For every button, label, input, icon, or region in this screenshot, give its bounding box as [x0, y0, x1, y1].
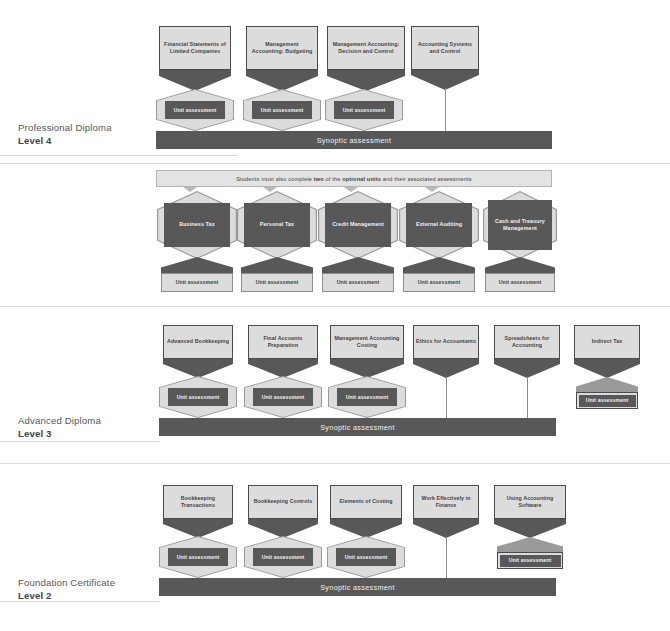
unit-box-elements-of-costing[interactable]: Elements of Costing: [330, 485, 402, 519]
unit-assessment-label-box: Unit assessment: [337, 388, 397, 406]
connector-line: [445, 88, 446, 132]
synoptic-assessment-bar-level-2[interactable]: Synoptic assessment: [159, 578, 556, 596]
unit-assessment-hexagon-financial-statements[interactable]: Unit assessment: [156, 89, 234, 131]
unit-box-advanced-bookkeeping[interactable]: Advanced Bookkeeping: [163, 325, 233, 359]
arrow-down-icon: [494, 519, 566, 538]
optional-unit-title-box: Cash and Treasury Management: [488, 200, 552, 250]
unit-box-using-accounting-software[interactable]: Using Accounting Software: [494, 485, 566, 519]
unit-title: Indirect Tax: [590, 338, 625, 345]
unit-box-management-accounting-decision-control[interactable]: Management Accounting: Decision and Cont…: [327, 26, 405, 70]
unit-box-accounting-systems-and-control[interactable]: Accounting Systems and Control: [411, 26, 479, 70]
section-divider: [0, 163, 670, 164]
optional-unit-hexagon-personal-tax[interactable]: Personal Tax: [237, 191, 317, 259]
arrow-up-icon: [576, 377, 638, 393]
optional-unit-title: Cash and Treasury Management: [488, 218, 552, 232]
arrow-up-icon: [161, 257, 233, 274]
unit-title: Elements of Costing: [337, 498, 394, 505]
unit-assessment-box-indirect-tax[interactable]: Unit assessment: [576, 392, 638, 409]
unit-assessment-hexagon-final-accounts[interactable]: Unit assessment: [244, 376, 322, 418]
unit-assessment-label: Unit assessment: [174, 107, 217, 114]
unit-title: Spreadsheets for Accounting: [495, 335, 559, 349]
synoptic-assessment-bar-level-4[interactable]: Synoptic assessment: [156, 131, 552, 149]
banner-prefix: Students must also complete: [236, 176, 314, 182]
unit-assessment-hexagon-bookkeeping-transactions[interactable]: Unit assessment: [159, 536, 237, 578]
level-number: Level 4: [18, 135, 112, 148]
unit-assessment-box-personal-tax[interactable]: Unit assessment: [241, 273, 313, 292]
arrow-down-icon: [327, 70, 405, 91]
level-label-professional-diploma: Professional Diploma Level 4: [18, 122, 112, 147]
unit-title: Management Accounting: Decision and Cont…: [328, 41, 404, 55]
optional-unit-hexagon-credit-management[interactable]: Credit Management: [318, 191, 398, 259]
banner-mid: of the: [324, 176, 342, 182]
banner-bold-two: two: [314, 176, 324, 182]
unit-title: Bookkeeping Controls: [252, 498, 315, 505]
unit-assessment-label: Unit assessment: [177, 554, 220, 561]
unit-box-work-effectively-in-finance[interactable]: Work Effectively in Finance: [413, 485, 479, 519]
unit-title: Using Accounting Software: [495, 495, 565, 509]
optional-unit-title-box: Business Tax: [164, 203, 230, 247]
unit-box-management-accounting-costing[interactable]: Management Accounting Costing: [330, 325, 404, 359]
unit-assessment-hexagon-budgeting[interactable]: Unit assessment: [243, 89, 321, 131]
unit-assessment-hexagon-elements-of-costing[interactable]: Unit assessment: [327, 536, 405, 578]
synoptic-assessment-bar-level-3[interactable]: Synoptic assessment: [159, 418, 556, 436]
unit-assessment-label: Unit assessment: [337, 279, 380, 286]
connector-line: [446, 537, 447, 579]
optional-unit-title: External Auditing: [416, 221, 462, 228]
unit-title: Management Accounting Costing: [331, 335, 403, 349]
synoptic-assessment-label: Synoptic assessment: [320, 423, 395, 432]
unit-assessment-box-external-auditing[interactable]: Unit assessment: [403, 273, 475, 292]
optional-unit-hexagon-external-auditing[interactable]: External Auditing: [399, 191, 479, 259]
unit-assessment-label: Unit assessment: [343, 107, 386, 114]
unit-box-final-accounts-preparation[interactable]: Final Accounts Preparation: [248, 325, 318, 359]
unit-box-spreadsheets-for-accounting[interactable]: Spreadsheets for Accounting: [494, 325, 560, 359]
optional-unit-title: Personal Tax: [260, 221, 294, 228]
arrow-up-icon: [322, 257, 394, 274]
unit-assessment-label: Unit assessment: [261, 107, 304, 114]
unit-assessment-fill: Unit assessment: [500, 555, 561, 567]
unit-assessment-box-business-tax[interactable]: Unit assessment: [161, 273, 233, 292]
section-divider: [0, 155, 238, 156]
unit-assessment-label-box: Unit assessment: [253, 388, 313, 406]
unit-assessment-label: Unit assessment: [262, 394, 305, 401]
unit-assessment-label: Unit assessment: [418, 279, 461, 286]
arrow-up-icon: [485, 257, 555, 274]
unit-title: Bookkeeping Transactions: [164, 495, 232, 509]
unit-assessment-label-box: Unit assessment: [253, 548, 313, 566]
unit-assessment-label: Unit assessment: [345, 554, 388, 561]
banner-bold-optional-units: optional units: [342, 176, 381, 182]
arrow-down-icon: [411, 70, 479, 90]
unit-title: Financial Statements of Limited Companie…: [160, 41, 230, 55]
unit-assessment-hexagon-advanced-bookkeeping[interactable]: Unit assessment: [159, 376, 237, 418]
unit-assessment-box-credit-management[interactable]: Unit assessment: [322, 273, 394, 292]
optional-unit-title: Business Tax: [179, 221, 215, 228]
level-name: Advanced Diploma: [18, 415, 101, 428]
section-divider: [0, 463, 670, 464]
level-name: Professional Diploma: [18, 122, 112, 135]
unit-assessment-box-using-accounting-software[interactable]: Unit assessment: [497, 552, 563, 569]
synoptic-assessment-label: Synoptic assessment: [317, 136, 392, 145]
unit-assessment-label: Unit assessment: [346, 394, 389, 401]
arrow-down-icon: [246, 70, 318, 91]
arrow-up-icon: [241, 257, 313, 274]
unit-assessment-hexagon-costing[interactable]: Unit assessment: [328, 376, 406, 418]
unit-box-indirect-tax[interactable]: Indirect Tax: [574, 325, 640, 359]
unit-box-ethics-for-accountants[interactable]: Ethics for Accountants: [413, 325, 479, 359]
unit-assessment-hexagon-decision-control[interactable]: Unit assessment: [325, 89, 403, 131]
unit-title: Work Effectively in Finance: [414, 495, 478, 509]
unit-assessment-label: Unit assessment: [176, 279, 219, 286]
unit-box-management-accounting-budgeting[interactable]: Management Accounting: Budgeting: [246, 26, 318, 70]
unit-assessment-hexagon-bookkeeping-controls[interactable]: Unit assessment: [244, 536, 322, 578]
unit-box-bookkeeping-transactions[interactable]: Bookkeeping Transactions: [163, 485, 233, 519]
unit-box-bookkeeping-controls[interactable]: Bookkeeping Controls: [248, 485, 318, 519]
optional-unit-hexagon-business-tax[interactable]: Business Tax: [157, 191, 237, 259]
unit-assessment-box-cash-treasury[interactable]: Unit assessment: [485, 273, 555, 292]
unit-title: Accounting Systems and Control: [412, 41, 478, 55]
optional-unit-hexagon-cash-treasury-management[interactable]: Cash and Treasury Management: [483, 191, 557, 259]
unit-assessment-label: Unit assessment: [586, 397, 629, 404]
unit-box-financial-statements[interactable]: Financial Statements of Limited Companie…: [159, 26, 231, 70]
unit-assessment-label-box: Unit assessment: [334, 101, 394, 119]
unit-assessment-label-box: Unit assessment: [336, 548, 396, 566]
optional-unit-title-box: Personal Tax: [244, 203, 310, 247]
unit-assessment-label: Unit assessment: [262, 554, 305, 561]
arrow-down-icon: [413, 359, 479, 378]
